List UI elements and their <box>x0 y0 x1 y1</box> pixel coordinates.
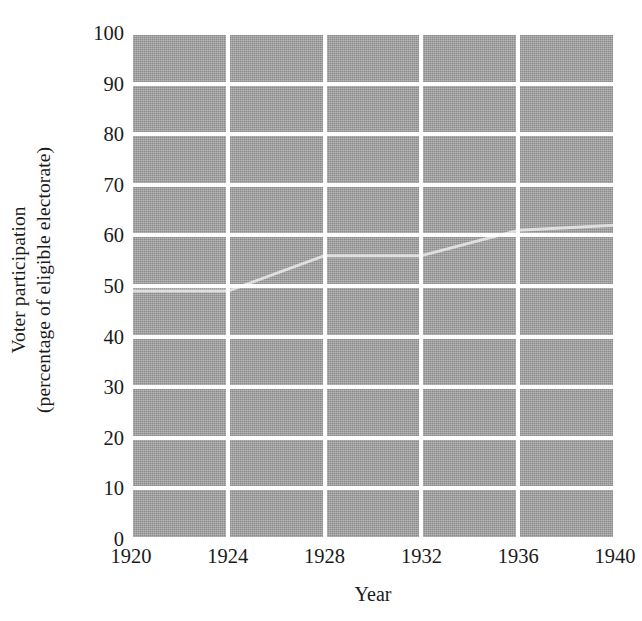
gridline-vertical-1940 <box>613 33 615 539</box>
y-tick-label-10: 10 <box>68 478 124 499</box>
gridline-horizontal-10 <box>131 486 615 490</box>
gridline-horizontal-100 <box>131 33 615 35</box>
gridline-vertical-1928 <box>323 33 327 539</box>
y-tick-label-50: 50 <box>68 276 124 297</box>
y-tick-label-20: 20 <box>68 428 124 449</box>
gridline-vertical-1924 <box>226 33 230 539</box>
gridline-horizontal-20 <box>131 436 615 440</box>
y-tick-label-70: 70 <box>68 175 124 196</box>
y-axis-title-line-1: Voter participation <box>7 147 32 413</box>
gridline-horizontal-40 <box>131 335 615 339</box>
x-axis-tick-labels: 192019241928193219361940 <box>131 546 615 580</box>
gridline-horizontal-80 <box>131 132 615 136</box>
gridline-vertical-1936 <box>516 33 520 539</box>
y-axis-tick-labels: 0102030405060708090100 <box>64 0 124 621</box>
x-tick-label-1920: 1920 <box>83 546 179 567</box>
x-tick-label-1924: 1924 <box>180 546 276 567</box>
gridline-vertical-1932 <box>419 33 423 539</box>
x-tick-label-1928: 1928 <box>277 546 373 567</box>
gridline-vertical-1920 <box>131 33 133 539</box>
y-tick-label-60: 60 <box>68 225 124 246</box>
y-tick-label-90: 90 <box>68 73 124 94</box>
y-tick-label-40: 40 <box>68 326 124 347</box>
y-tick-label-80: 80 <box>68 124 124 145</box>
gridline-horizontal-0 <box>131 537 615 539</box>
gridline-horizontal-50 <box>131 284 615 288</box>
plot-area <box>131 33 615 539</box>
y-axis-title-line-2: (percentage of eligible electorate) <box>32 147 57 413</box>
y-tick-label-100: 100 <box>68 23 124 44</box>
x-tick-label-1932: 1932 <box>373 546 469 567</box>
x-tick-label-1940: 1940 <box>567 546 642 567</box>
y-axis-title: Voter participation (percentage of eligi… <box>0 0 64 560</box>
y-tick-label-30: 30 <box>68 377 124 398</box>
voter-participation-line-chart: Voter participation (percentage of eligi… <box>0 0 642 621</box>
gridline-horizontal-90 <box>131 82 615 86</box>
x-tick-label-1936: 1936 <box>470 546 566 567</box>
x-axis-title: Year <box>131 584 615 604</box>
gridline-horizontal-30 <box>131 385 615 389</box>
gridline-horizontal-60 <box>131 233 615 237</box>
gridline-horizontal-70 <box>131 183 615 187</box>
